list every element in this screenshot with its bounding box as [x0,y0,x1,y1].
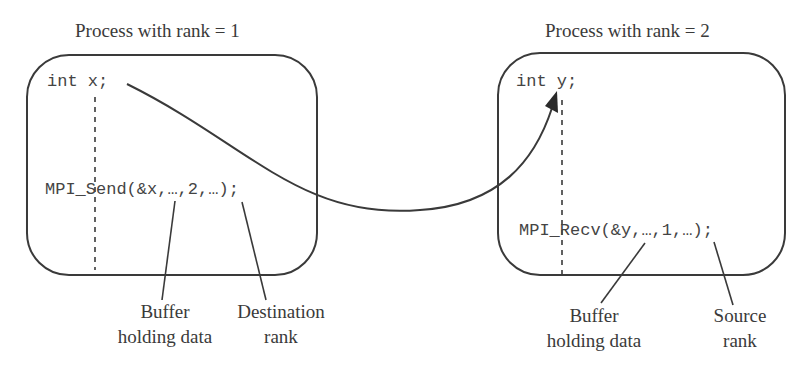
destination-rank-label: Destination rank [226,299,336,349]
recv-buffer-label-line1: Buffer [534,303,654,328]
recv-buffer-label-line2: holding data [534,328,654,353]
source-rank-label-line2: rank [700,328,780,353]
recv-buffer-label: Buffer holding data [534,303,654,353]
send-buffer-label: Buffer holding data [110,299,220,349]
send-buffer-label-line2: holding data [110,324,220,349]
process-2-declaration: int y; [516,72,577,91]
send-buffer-label-line1: Buffer [110,299,220,324]
mpi-recv-call: MPI_Recv(&y,…,1,…); [519,221,713,240]
process-1-title: Process with rank = 1 [75,20,240,42]
destination-pointer-line [242,202,266,300]
mpi-send-call: MPI_Send(&x,…,2,…); [45,180,239,199]
source-rank-label-line1: Source [700,303,780,328]
source-pointer-line [714,242,733,305]
process-2-title: Process with rank = 2 [545,20,710,42]
process-1-declaration: int x; [47,72,108,91]
destination-rank-label-line1: Destination [226,299,336,324]
source-rank-label: Source rank [700,303,780,353]
mpi-send-recv-diagram: Process with rank = 1 Process with rank … [0,0,804,367]
buffer-pointer-line-1 [162,201,175,300]
buffer-pointer-line-2 [601,243,645,303]
destination-rank-label-line2: rank [226,324,336,349]
